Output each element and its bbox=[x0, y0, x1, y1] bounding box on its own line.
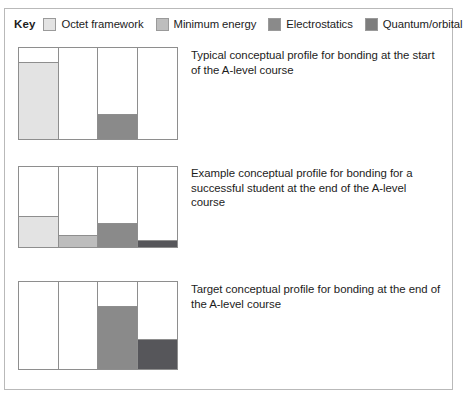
legend-item-minimum-energy: Minimum energy bbox=[156, 18, 257, 31]
legend-item-octet-framework: Octet framework bbox=[43, 18, 143, 31]
bar-column-electrostatics bbox=[98, 48, 138, 139]
bar-column-octet-framework bbox=[19, 48, 59, 139]
chart-panel-1 bbox=[18, 47, 178, 140]
legend-label-electrostatics: Electrostatics bbox=[286, 18, 352, 30]
chart-panel-2 bbox=[18, 166, 178, 248]
bar-quantum-orbital bbox=[138, 240, 178, 247]
bar-column-octet-framework bbox=[19, 282, 59, 369]
legend-swatch-quantum-orbital bbox=[365, 18, 378, 31]
bar-octet-framework bbox=[19, 216, 58, 247]
bar-column-quantum-orbital bbox=[138, 167, 178, 247]
legend-swatch-minimum-energy bbox=[156, 18, 169, 31]
bar-electrostatics bbox=[98, 306, 137, 369]
bar-chart-2 bbox=[18, 166, 178, 248]
chart-caption-3: Target conceptual profile for bonding at… bbox=[191, 282, 443, 311]
chart-panel-3 bbox=[18, 281, 178, 370]
bar-octet-framework bbox=[19, 62, 58, 139]
legend-label-octet-framework: Octet framework bbox=[61, 18, 143, 30]
bar-column-electrostatics bbox=[98, 167, 138, 247]
legend-label-minimum-energy: Minimum energy bbox=[174, 18, 257, 30]
chart-caption-1: Typical conceptual profile for bonding a… bbox=[191, 48, 443, 77]
bar-quantum-orbital bbox=[138, 339, 178, 369]
bar-column-minimum-energy bbox=[59, 282, 99, 369]
legend-swatch-octet-framework bbox=[43, 18, 56, 31]
legend-item-quantum-orbital: Quantum/orbital bbox=[365, 18, 463, 31]
bar-chart-1 bbox=[18, 47, 178, 140]
bar-column-minimum-energy bbox=[59, 48, 99, 139]
bar-minimum-energy bbox=[59, 235, 98, 247]
bar-column-octet-framework bbox=[19, 167, 59, 247]
bar-column-minimum-energy bbox=[59, 167, 99, 247]
bar-column-quantum-orbital bbox=[138, 48, 178, 139]
key-legend: Key Octet framework Minimum energy Elect… bbox=[14, 16, 467, 32]
bar-column-quantum-orbital bbox=[138, 282, 178, 369]
legend-item-electrostatics: Electrostatics bbox=[268, 18, 352, 31]
legend-label-quantum-orbital: Quantum/orbital bbox=[383, 18, 463, 30]
chart-caption-2: Example conceptual profile for bonding f… bbox=[191, 166, 443, 210]
bar-column-electrostatics bbox=[98, 282, 138, 369]
bar-electrostatics bbox=[98, 114, 137, 139]
bar-chart-3 bbox=[18, 281, 178, 370]
bar-electrostatics bbox=[98, 223, 137, 247]
key-label: Key bbox=[14, 18, 35, 30]
legend-swatch-electrostatics bbox=[268, 18, 281, 31]
